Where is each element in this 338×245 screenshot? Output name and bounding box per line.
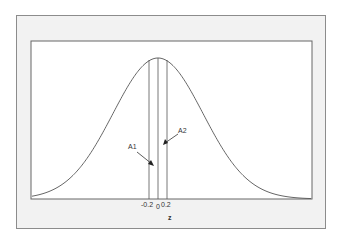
- annotation-a2: A2: [178, 127, 187, 134]
- tick-pos: 0.2: [161, 201, 171, 208]
- tick-neg: -0.2: [141, 201, 153, 208]
- annotation-a1: A1: [128, 143, 137, 150]
- tick-zero: 0: [156, 203, 160, 210]
- chart-root: A1 A2 -0.2 0 0.2 z: [0, 0, 338, 245]
- plot-area: [0, 0, 338, 245]
- x-axis-label: z: [168, 214, 172, 221]
